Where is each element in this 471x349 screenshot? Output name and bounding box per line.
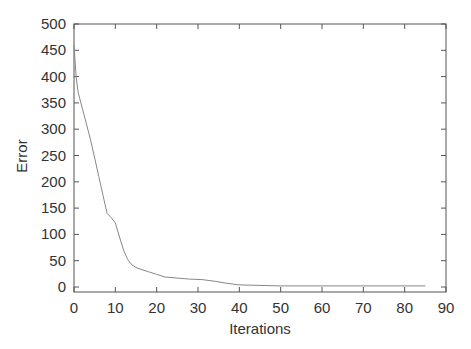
y-tick-label: 50 (49, 252, 66, 269)
line-chart: 050100150200250300350400450500 010203040… (0, 0, 471, 349)
y-tick-label: 150 (41, 199, 66, 216)
series-lines (74, 45, 425, 286)
plot-border (74, 24, 446, 292)
y-tick-label: 0 (58, 278, 66, 295)
x-axis: 0102030405060708090 (70, 24, 455, 316)
y-tick-label: 450 (41, 41, 66, 58)
y-tick-label: 350 (41, 94, 66, 111)
plot-frame (74, 24, 446, 292)
x-tick-label: 70 (355, 299, 372, 316)
x-tick-label: 90 (438, 299, 455, 316)
x-tick-label: 20 (148, 299, 165, 316)
x-tick-label: 80 (396, 299, 413, 316)
series-line-error (74, 45, 425, 286)
y-axis-label: Error (13, 139, 30, 172)
x-tick-label: 40 (231, 299, 248, 316)
x-tick-label: 10 (107, 299, 124, 316)
x-axis-label: Iterations (229, 320, 291, 337)
y-tick-label: 300 (41, 120, 66, 137)
y-tick-label: 100 (41, 225, 66, 242)
y-tick-label: 400 (41, 68, 66, 85)
y-tick-label: 250 (41, 147, 66, 164)
y-axis: 050100150200250300350400450500 (41, 15, 446, 295)
x-tick-label: 60 (314, 299, 331, 316)
x-tick-label: 30 (190, 299, 207, 316)
x-tick-label: 0 (70, 299, 78, 316)
x-tick-label: 50 (272, 299, 289, 316)
y-tick-label: 200 (41, 173, 66, 190)
y-tick-label: 500 (41, 15, 66, 32)
